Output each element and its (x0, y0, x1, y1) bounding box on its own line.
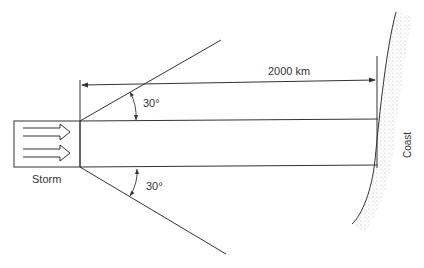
storm-swell-diagram: 2000 km 30° 30° Storm Coast (0, 0, 424, 268)
angle-arc-bottom-arrows (130, 169, 139, 196)
angle-top-label: 30° (143, 97, 160, 109)
distance-dimension (81, 78, 376, 88)
coastline (352, 12, 412, 232)
spread-lines (80, 40, 226, 254)
fetch-lines (80, 119, 378, 167)
storm-label: Storm (32, 173, 61, 185)
wind-arrow-icon (23, 124, 70, 161)
coast-label: Coast (402, 132, 413, 158)
dimension-extension-lines (80, 56, 377, 168)
angle-bottom-label: 30° (146, 180, 163, 192)
distance-label: 2000 km (268, 65, 310, 77)
angle-arc-top-arrows (130, 92, 138, 120)
